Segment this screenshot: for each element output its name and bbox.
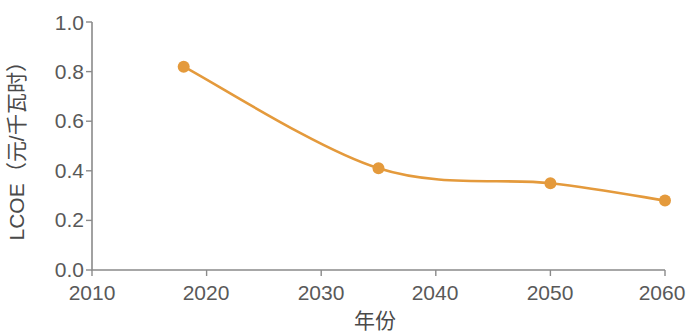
y-tick-label-1.0: 1.0 [55,11,84,34]
x-tick-label-2050: 2050 [527,281,574,304]
y-tick-label-0.4: 0.4 [55,159,85,182]
x-axis-label: 年份 [354,309,396,332]
y-tick-label-0.8: 0.8 [55,60,84,83]
x-tick-label-2040: 2040 [412,281,459,304]
data-point-2050 [544,177,556,189]
y-tick-label-0.6: 0.6 [55,109,84,132]
x-tick-label-2060: 2060 [639,281,686,304]
y-axis-ticks [86,22,92,270]
data-point-2035 [373,162,385,174]
x-tick-label-2020: 2020 [183,281,230,304]
y-tick-label-0.2: 0.2 [55,208,84,231]
x-axis-ticks [92,270,665,276]
series-markers-lcoe [178,61,671,207]
line-chart: LCOE（元/千瓦时） 年份 1.0 0.8 0.6 0.4 0.2 0.0 2… [0,0,690,335]
data-point-2018 [178,61,190,73]
y-tick-label-0.0: 0.0 [55,258,84,281]
axis-spines [92,22,665,270]
x-tick-label-2030: 2030 [298,281,345,304]
series-line-lcoe [184,67,665,201]
y-axis-label: LCOE（元/千瓦时） [5,51,28,240]
chart-figure: LCOE（元/千瓦时） 年份 1.0 0.8 0.6 0.4 0.2 0.0 2… [0,0,690,335]
x-tick-label-2010: 2010 [69,281,116,304]
data-point-2060 [659,195,671,207]
